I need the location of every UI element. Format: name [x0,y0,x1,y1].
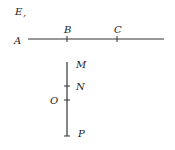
label-o: O [50,95,58,106]
label-e-dot: , [23,7,26,18]
label-m: M [75,59,87,70]
label-b: B [63,24,71,35]
geometry-diagram: E , A B C M N O P [0,0,175,150]
label-n: N [75,81,86,92]
label-e: E [14,6,23,17]
label-a: A [13,35,21,46]
label-c: C [114,24,122,35]
label-p: P [77,128,85,139]
